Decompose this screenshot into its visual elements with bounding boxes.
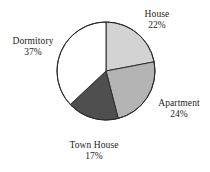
pie-label-dormitory: Dormitory 37% [2,36,64,58]
pie-label-house: House 22% [128,9,186,31]
pie-label-house-value: 22% [128,20,186,31]
pie-slice-group [57,22,155,120]
pie-chart-figure: House 22% Apartment 24% Town House 17% D… [0,0,210,172]
pie-label-dormitory-name: Dormitory [2,36,64,47]
pie-label-town-house: Town House 17% [53,140,135,162]
pie-label-apartment-value: 24% [148,109,210,120]
pie-label-house-name: House [128,9,186,20]
pie-label-town-house-value: 17% [53,151,135,162]
pie-label-town-house-name: Town House [53,140,135,151]
pie-label-apartment-name: Apartment [148,98,210,109]
pie-label-apartment: Apartment 24% [148,98,210,120]
pie-label-dormitory-value: 37% [2,47,64,58]
